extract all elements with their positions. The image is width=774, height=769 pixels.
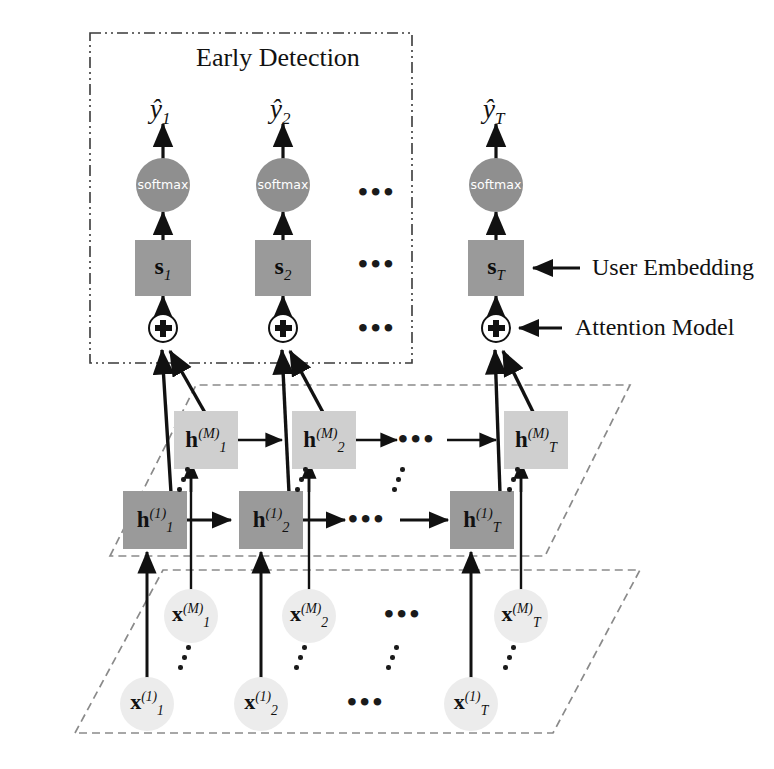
ellipsis-hidden-stack-1 xyxy=(177,467,191,497)
softmax-node-2: softmax xyxy=(256,158,310,212)
ellipsis-input-stack-2 xyxy=(294,645,308,675)
label-attention-model: Attention Model xyxy=(575,314,734,341)
embedding-box-2: s2 xyxy=(255,240,311,296)
attention-sum-node-2 xyxy=(268,313,298,343)
attention-sum-node-T xyxy=(481,313,511,343)
hidden-m-box-1: h(M)1 xyxy=(174,411,238,469)
attn-line-h1-2-to-plus-2 xyxy=(282,350,289,493)
hidden-m-box-T: h(M)T xyxy=(504,411,568,469)
label-user-embedding: User Embedding xyxy=(592,254,754,281)
diagram-canvas: Early Detection ŷ1 ŷ2 ŷT softmax softmax… xyxy=(0,0,774,769)
embedding-box-1: s1 xyxy=(135,240,191,296)
softmax-node-1: softmax xyxy=(136,158,190,212)
input-1-node-2: x(1)2 xyxy=(234,677,288,731)
hidden-m-box-2: h(M)2 xyxy=(292,411,356,469)
hidden-1-box-1: h(1)1 xyxy=(123,491,187,549)
ellipsis-softmax-row: ••• xyxy=(358,178,396,206)
ellipsis-attention-row: ••• xyxy=(358,314,396,342)
embedding-box-T: sT xyxy=(468,240,524,296)
hidden-1-box-2: h(1)2 xyxy=(239,491,303,549)
attn-line-h1-T-to-plus-T xyxy=(495,350,500,493)
input-m-node-2: x(M)2 xyxy=(282,589,336,643)
early-detection-title: Early Detection xyxy=(196,43,360,73)
ellipsis-hidden-m-row: ••• xyxy=(398,425,436,453)
hidden-1-box-T: h(1)T xyxy=(450,491,514,549)
attention-sum-node-1 xyxy=(148,313,178,343)
ellipsis-input-m-row: ••• xyxy=(384,600,422,628)
ellipsis-hidden-1-row: ••• xyxy=(348,505,386,533)
ellipsis-hidden-stack-2 xyxy=(295,467,309,497)
input-1-node-T: x(1)T xyxy=(444,677,498,731)
input-m-node-T: x(M)T xyxy=(494,589,548,643)
ellipsis-input-stack-T xyxy=(503,645,517,675)
ellipsis-input-stack-mid xyxy=(386,645,400,675)
ellipsis-embedding-row: ••• xyxy=(358,250,396,278)
ellipsis-input-1-row: ••• xyxy=(347,688,385,716)
ellipsis-hidden-stack-T xyxy=(507,467,521,497)
softmax-node-T: softmax xyxy=(469,158,523,212)
input-m-node-1: x(M)1 xyxy=(164,589,218,643)
output-label-y-1: ŷ1 xyxy=(150,96,170,127)
ellipsis-input-stack-1 xyxy=(178,645,192,675)
output-label-y-T: ŷT xyxy=(483,96,504,127)
input-1-node-1: x(1)1 xyxy=(120,677,174,731)
attn-line-h1-1-to-plus-1 xyxy=(162,350,171,493)
ellipsis-hidden-stack-mid xyxy=(392,467,406,497)
output-label-y-2: ŷ2 xyxy=(270,96,290,127)
